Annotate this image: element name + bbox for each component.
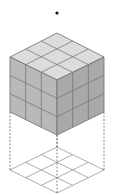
diagram-canvas [0, 0, 114, 195]
isometric-cube-diagram [0, 0, 114, 195]
cube [10, 33, 104, 135]
point-dot [55, 11, 58, 14]
